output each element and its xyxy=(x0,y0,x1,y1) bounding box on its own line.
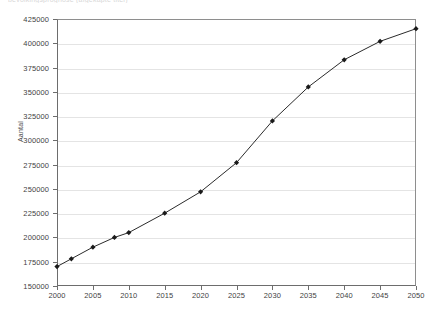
data-point-marker xyxy=(90,245,95,250)
data-point-marker xyxy=(378,39,383,44)
chart-container: bevolkingsprognose (afgekapte titel) Aan… xyxy=(0,0,428,311)
data-point-marker xyxy=(112,235,117,240)
data-series-line xyxy=(0,0,428,311)
series-line xyxy=(57,29,416,267)
data-point-marker xyxy=(54,264,59,269)
data-point-marker xyxy=(126,230,131,235)
data-point-marker xyxy=(413,26,418,31)
data-point-marker xyxy=(162,211,167,216)
data-point-marker xyxy=(69,256,74,261)
